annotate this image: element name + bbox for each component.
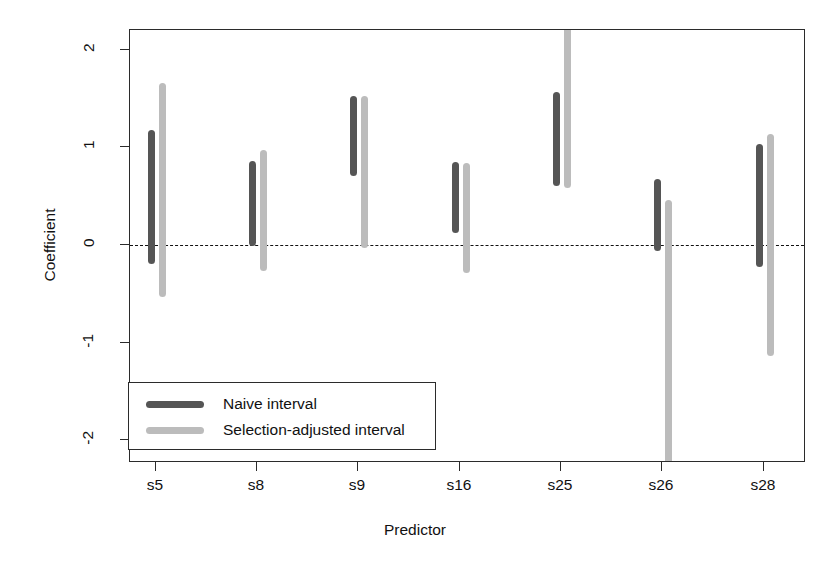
x-axis-title: Predictor [0, 521, 830, 539]
interval-bar-adjusted-s26 [665, 200, 672, 462]
legend-swatch-selection-adjusted-icon [146, 427, 204, 434]
legend-item-naive: Naive interval [129, 391, 435, 417]
x-axis-tick-label-s16: s16 [419, 477, 499, 493]
interval-bar-naive-s9 [350, 96, 357, 176]
y-axis-tick-label: -2 [68, 430, 108, 446]
x-axis-tick-label-s9: s9 [317, 477, 397, 493]
interval-bar-adjusted-s16 [463, 163, 470, 273]
y-axis-tick [120, 342, 129, 343]
x-axis-tick [256, 462, 257, 471]
x-axis-tick-label-s26: s26 [621, 477, 701, 493]
x-axis-tick [560, 462, 561, 471]
x-axis-tick-label-s8: s8 [216, 477, 296, 493]
x-axis-tick [459, 462, 460, 471]
interval-bar-adjusted-s25 [564, 29, 571, 188]
legend-swatch-naive-icon [146, 401, 204, 408]
y-axis-tick [120, 244, 129, 245]
x-axis-tick-label-s25: s25 [520, 477, 600, 493]
interval-bar-naive-s16 [452, 162, 459, 233]
x-axis-tick [155, 462, 156, 471]
x-axis-tick-label-s5: s5 [115, 477, 195, 493]
y-axis-tick [120, 146, 129, 147]
x-axis-tick [357, 462, 358, 471]
chart-legend: Naive interval Selection-adjusted interv… [128, 382, 436, 450]
x-axis-tick [763, 462, 764, 471]
legend-item-selection-adjusted: Selection-adjusted interval [129, 417, 435, 443]
interval-bar-naive-s28 [756, 144, 763, 267]
y-axis-title: Coefficient [41, 185, 59, 305]
y-axis-tick-label: 1 [68, 137, 108, 153]
legend-label-naive: Naive interval [223, 396, 317, 412]
y-axis-tick-label: 0 [68, 235, 108, 251]
interval-bar-naive-s26 [654, 179, 661, 251]
interval-bar-naive-s8 [249, 161, 256, 246]
chart-canvas: Coefficient 210-1-2 s5s8s9s16s25s26s28 P… [0, 0, 830, 572]
interval-bar-adjusted-s28 [767, 134, 774, 357]
y-axis-tick-label: 2 [68, 40, 108, 56]
interval-bar-adjusted-s5 [159, 83, 166, 297]
x-axis-tick [661, 462, 662, 471]
interval-bar-adjusted-s8 [260, 150, 267, 271]
interval-bar-adjusted-s9 [361, 96, 368, 248]
y-axis-tick-label: -1 [68, 333, 108, 349]
interval-bar-naive-s5 [148, 130, 155, 264]
legend-label-selection-adjusted: Selection-adjusted interval [223, 422, 405, 438]
x-axis-tick-label-s28: s28 [723, 477, 803, 493]
interval-bar-naive-s25 [553, 92, 560, 187]
y-axis-tick [120, 49, 129, 50]
